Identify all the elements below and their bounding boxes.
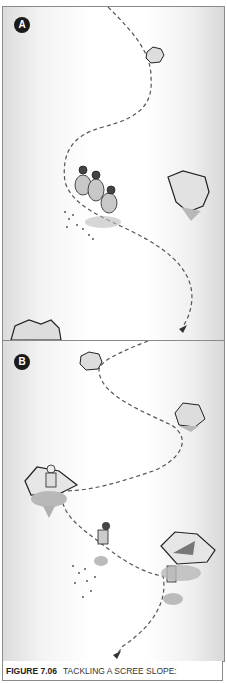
climbers-group [75, 166, 117, 213]
panel-a: A [2, 6, 225, 341]
panel-label-a: A [14, 17, 30, 33]
figure-number: FIGURE 7.06 [6, 666, 57, 676]
panel-a-illustration [3, 7, 224, 340]
panel-label-b: B [14, 354, 30, 370]
figure-caption: FIGURE 7.06TACKLING A SCREE SLOPE: [2, 661, 223, 681]
panel-b-illustration [3, 341, 224, 661]
figure: A [0, 0, 227, 683]
panel-b: B [2, 340, 225, 662]
figure-title: TACKLING A SCREE SLOPE: [63, 666, 177, 676]
